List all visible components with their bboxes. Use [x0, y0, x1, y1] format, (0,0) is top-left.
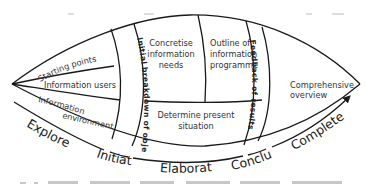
feedback-band-right — [258, 27, 270, 141]
phase-explore: Explore — [24, 116, 72, 151]
divider-concretise-outline — [198, 15, 206, 102]
phase-conclude: Conclude — [0, 0, 274, 173]
process-diagram: Starting points Information users Inform… — [0, 0, 366, 185]
phase-complete: Complete — [288, 108, 347, 153]
svg-text:situation: situation — [178, 121, 214, 131]
svg-text:Comprehensive: Comprehensive — [290, 80, 354, 90]
svg-text:needs: needs — [159, 60, 184, 70]
region-concretise: Concretise information needs — [147, 38, 194, 70]
svg-text:information: information — [147, 49, 194, 59]
label-information-env-1: Information — [38, 94, 87, 116]
label-information-env-2: environment — [61, 110, 115, 131]
caption-fragments — [20, 181, 342, 184]
svg-text:Determine present: Determine present — [157, 110, 235, 120]
svg-text:Concretise: Concretise — [149, 38, 192, 48]
svg-text:Outline of: Outline of — [210, 38, 251, 48]
region-determine: Determine present situation — [157, 110, 235, 131]
svg-text:overview: overview — [290, 90, 327, 100]
divider-upper-lower-middle — [145, 100, 262, 102]
label-information-users: Information users — [44, 80, 116, 90]
